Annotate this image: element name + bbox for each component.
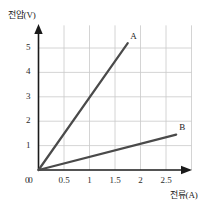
x-tick-label: 2.5 [157, 175, 175, 185]
y-tick-label: 3 [19, 91, 31, 101]
gridlines [39, 25, 192, 170]
y-axis-arrowhead [34, 24, 42, 34]
x-tick-label: 1.5 [106, 175, 124, 185]
y-tick-label: 4 [19, 66, 31, 76]
x-tick-label: 2 [132, 175, 150, 185]
y-tick-label: 1 [19, 140, 31, 150]
y-axis-label: 전압(V) [8, 8, 36, 21]
x-tick-label: 0.5 [55, 175, 73, 185]
x-axis-arrowhead [181, 166, 192, 174]
y-tick-label: 2 [19, 115, 31, 125]
y-tick-label: 5 [19, 42, 31, 52]
series-lines [39, 43, 177, 170]
voltage-current-chart: 전압(V) 전류(A) 00.511.522.5 012345 AB [0, 0, 219, 209]
x-tick-label: 1 [81, 175, 99, 185]
x-axis-label: 전류(A) [170, 188, 198, 201]
series-label-a: A [130, 31, 137, 41]
y-tick-label: 0 [18, 175, 30, 185]
series-label-b: B [179, 122, 185, 132]
